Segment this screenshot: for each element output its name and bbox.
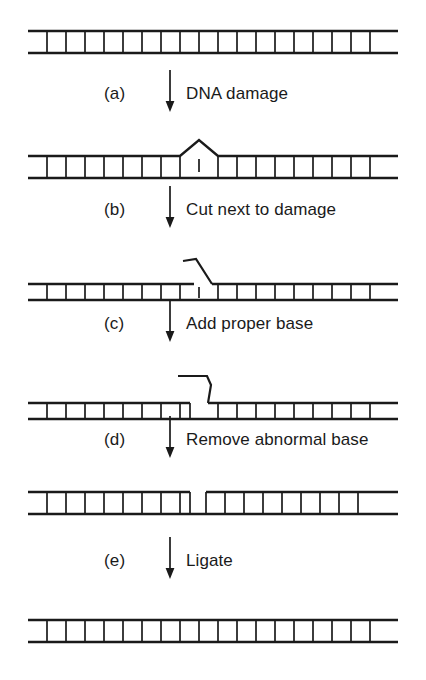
step-c: (c) Add proper base (0, 296, 426, 352)
base-pair-rungs (47, 492, 358, 514)
duplex-intact-1 (0, 28, 426, 58)
step-c-label: Add proper base (186, 314, 313, 334)
stage-nicked-duplex (0, 489, 426, 519)
step-a-index: (a) (104, 84, 125, 104)
step-e-index: (e) (104, 551, 125, 571)
dna-repair-figure: (a) DNA damage (0, 0, 426, 680)
step-d-index: (d) (104, 430, 125, 450)
step-b: (b) Cut next to damage (0, 182, 426, 238)
step-e-label: Ligate (186, 551, 233, 571)
step-b-label: Cut next to damage (186, 200, 336, 220)
base-pair-rungs (47, 31, 370, 53)
stage-damaged-duplex (0, 137, 426, 183)
base-pair-rungs (47, 620, 370, 642)
down-arrow-icon (163, 68, 177, 114)
step-c-index: (c) (104, 314, 124, 334)
step-a: (a) DNA damage (0, 66, 426, 122)
step-d-label: Remove abnormal base (186, 430, 368, 450)
duplex-damaged (0, 137, 426, 183)
step-a-label: DNA damage (186, 84, 288, 104)
top-strand-with-lesion (28, 140, 398, 156)
stage-intact-duplex (0, 28, 426, 58)
displaced-flap (178, 376, 211, 403)
duplex-intact-2 (0, 617, 426, 647)
duplex-nicked (0, 489, 426, 519)
stage-ligated-duplex (0, 617, 426, 647)
step-e: (e) Ligate (0, 533, 426, 589)
step-b-index: (b) (104, 200, 125, 220)
step-d: (d) Remove abnormal base (0, 412, 426, 468)
lifted-flap (183, 259, 212, 284)
down-arrow-icon (163, 535, 177, 581)
down-arrow-icon (163, 184, 177, 230)
down-arrow-icon (163, 414, 177, 460)
base-pair-rungs (47, 156, 370, 178)
down-arrow-icon (163, 298, 177, 344)
